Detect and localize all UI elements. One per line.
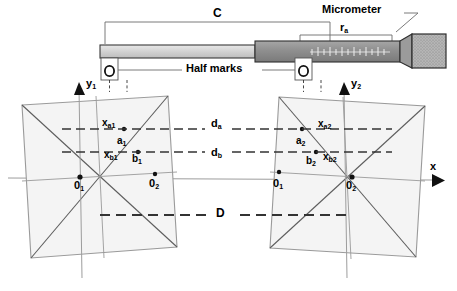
c-dimension-label: C bbox=[213, 7, 222, 19]
b2-label: b2 bbox=[306, 156, 316, 166]
anvil-block bbox=[412, 34, 446, 68]
half-marks-label: Half marks bbox=[186, 63, 242, 74]
micrometer-barrel bbox=[255, 41, 400, 62]
right-o1-label: 01 bbox=[273, 178, 283, 189]
a2-label: a2 bbox=[296, 136, 305, 146]
xa2-label: xa2 bbox=[318, 119, 331, 129]
y2-axis-label: y2 bbox=[351, 78, 361, 89]
da-label: da bbox=[211, 118, 222, 129]
b1-label: b1 bbox=[132, 154, 142, 164]
half-mark-holder-left bbox=[101, 58, 127, 92]
right-point-o1 bbox=[277, 170, 281, 174]
micrometer-spindle bbox=[400, 34, 412, 68]
left-point-o2 bbox=[153, 172, 157, 176]
x-axis-label: x bbox=[430, 161, 436, 172]
left-o1-label: 01 bbox=[74, 180, 84, 191]
ra-label: ra bbox=[340, 22, 348, 33]
micrometer-leader-line bbox=[396, 13, 418, 32]
a1-label: a1 bbox=[117, 136, 126, 146]
micrometer-label: Micrometer bbox=[322, 4, 381, 15]
D-label: D bbox=[216, 207, 225, 219]
y1-axis-label: y1 bbox=[86, 78, 96, 89]
xb1-label: xb1 bbox=[104, 150, 118, 160]
xb2-label: xb2 bbox=[323, 152, 337, 162]
diagram-canvas: C Micrometer ra Half marks y1 y2 x da db… bbox=[0, 0, 457, 291]
measuring-bar-light bbox=[100, 45, 255, 58]
left-o2-label: 02 bbox=[149, 178, 159, 189]
diagram-svg bbox=[0, 0, 457, 291]
xa1-label: xa1 bbox=[102, 118, 115, 128]
db-label: db bbox=[211, 147, 222, 158]
right-o2-label: 02 bbox=[346, 180, 356, 191]
half-mark-holder-right bbox=[295, 58, 321, 92]
